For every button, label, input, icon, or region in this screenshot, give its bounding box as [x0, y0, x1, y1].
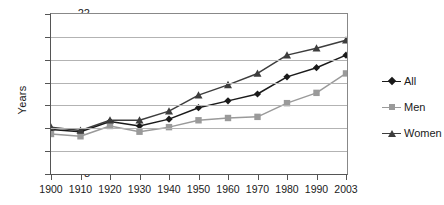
data-point-marker	[224, 97, 231, 104]
legend: AllMenWomen	[382, 68, 444, 146]
gridline	[51, 37, 347, 38]
gridline	[51, 105, 347, 106]
line-chart: Years 810121416182022 190019101920193019…	[0, 0, 444, 205]
x-axis-tick-label: 2003	[326, 184, 366, 195]
legend-marker-diamond-icon	[382, 75, 401, 87]
data-point-marker	[254, 90, 261, 97]
y-axis-title: Years	[2, 0, 14, 60]
gridline	[51, 83, 347, 84]
data-point-marker	[313, 90, 319, 96]
data-point-marker	[77, 133, 83, 139]
x-axis-tick-mark	[228, 175, 229, 180]
gridline	[51, 60, 347, 61]
data-point-marker	[283, 73, 290, 80]
x-axis-tick-mark	[140, 175, 141, 180]
y-axis-title-label: Years	[16, 60, 28, 140]
data-point-marker	[313, 64, 320, 71]
legend-marker-shape	[387, 77, 395, 85]
data-point-marker	[254, 69, 262, 76]
data-point-marker	[225, 115, 231, 121]
x-axis-tick-mark	[346, 175, 347, 180]
legend-marker-square-icon	[382, 101, 401, 113]
gridline	[51, 128, 347, 129]
plot-area	[50, 13, 348, 175]
gridline	[51, 151, 347, 152]
x-axis-tick-mark	[287, 175, 288, 180]
series-layer	[51, 14, 347, 174]
data-point-marker	[51, 131, 54, 137]
data-point-marker	[166, 124, 172, 130]
data-point-marker	[136, 129, 142, 135]
data-point-marker	[165, 107, 173, 114]
legend-marker-shape	[388, 130, 396, 137]
x-axis-tick-mark	[51, 175, 52, 180]
legend-marker-triangle-icon	[382, 127, 401, 139]
x-axis-tick-mark	[110, 175, 111, 180]
x-axis-tick-mark	[199, 175, 200, 180]
legend-item-label: Women	[401, 127, 442, 139]
legend-item-all[interactable]: All	[382, 68, 444, 94]
x-axis-tick-mark	[258, 175, 259, 180]
legend-item-men[interactable]: Men	[382, 94, 444, 120]
legend-marker-shape	[389, 104, 395, 110]
data-point-marker	[165, 116, 172, 123]
x-axis-tick-mark	[317, 175, 318, 180]
data-point-marker	[254, 114, 260, 120]
x-axis-tick-mark	[81, 175, 82, 180]
data-point-marker	[195, 117, 201, 123]
legend-item-label: Men	[401, 101, 425, 113]
series-line	[51, 40, 346, 130]
data-point-marker	[342, 52, 347, 59]
legend-item-women[interactable]: Women	[382, 120, 444, 146]
legend-item-label: All	[401, 75, 416, 87]
x-axis-tick-mark	[169, 175, 170, 180]
data-point-marker	[343, 70, 347, 76]
